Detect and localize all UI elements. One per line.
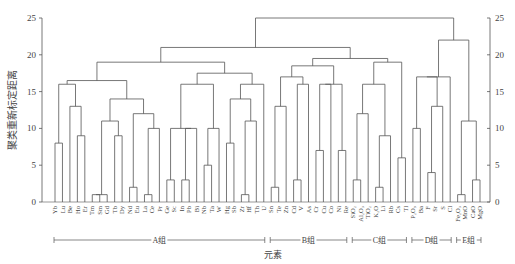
- tick-label: 25: [495, 13, 505, 23]
- leaf-label: Ba: [417, 206, 424, 213]
- leaf-label: Rb: [387, 206, 394, 214]
- right-axis-ticks: 0 5 10 15 20 25: [495, 13, 505, 207]
- leaf-labels: YbLuBeHoErTmSmGdTbDyNdEuLaCePrGeScInPbBi…: [51, 205, 483, 222]
- leaf-label: Er: [81, 205, 88, 212]
- group-label: C组: [373, 235, 386, 245]
- leaf-label: Ge: [163, 206, 170, 214]
- leaf-label: In: [178, 205, 185, 211]
- leaf-label: MgO: [476, 206, 483, 220]
- tick-label: 25: [27, 13, 37, 23]
- group-label: E组: [462, 235, 475, 245]
- y-axis-label: 聚类重新标定距离: [6, 70, 18, 150]
- leaf-label: Pb: [185, 206, 192, 213]
- leaf-label: U: [260, 206, 267, 211]
- leaf-label: V: [297, 206, 304, 211]
- leaf-label: Cr: [312, 205, 319, 212]
- leaf-label: MnO: [461, 206, 468, 220]
- leaf-label: Lu: [59, 205, 66, 213]
- left-axis: [39, 18, 42, 202]
- right-axis: [487, 18, 490, 202]
- leaf-label: Re: [342, 206, 349, 213]
- tick-label: 15: [495, 87, 505, 97]
- tick-label: 15: [27, 87, 37, 97]
- leaf-label: TiO₂: [364, 206, 371, 219]
- leaf-label: Cu: [320, 205, 327, 213]
- leaf-label: Be: [66, 206, 73, 213]
- leaf-label: Dy: [118, 205, 125, 214]
- tick-label: 5: [495, 160, 500, 170]
- leaf-label: Sc: [170, 206, 177, 213]
- tick-label: 10: [495, 123, 505, 133]
- leaf-label: Fe₂O₃: [454, 206, 461, 222]
- leaf-label: As: [305, 206, 312, 214]
- leaf-label: Pr: [156, 205, 163, 212]
- leaf-label: Sb: [230, 206, 237, 213]
- tick-label: 5: [32, 160, 37, 170]
- leaf-label: Tm: [88, 206, 95, 215]
- leaf-label: S: [439, 206, 446, 210]
- leaf-label: Sm: [96, 206, 103, 215]
- leaf-label: Th: [253, 205, 260, 213]
- leaf-label: Te: [275, 206, 282, 213]
- leaf-label: SiO₂: [349, 206, 356, 218]
- leaf-label: K₂O: [372, 206, 379, 218]
- leaf-label: Nb: [200, 206, 207, 214]
- leaf-label: Sr: [431, 205, 438, 212]
- leaf-label: Hf: [245, 205, 252, 213]
- leaf-label: Zr: [238, 205, 245, 212]
- leaf-label: Hg: [223, 205, 230, 214]
- leaf-label: Cl: [446, 206, 453, 212]
- dendrogram-chart: 0 5 10 15 20 25 0 5 10 15 20 25 聚类重新标定距离…: [0, 0, 515, 264]
- leaf-label: CaO: [469, 206, 476, 218]
- group-label: B组: [302, 235, 315, 245]
- group-label: D组: [425, 235, 439, 245]
- leaf-label: Yb: [51, 206, 58, 214]
- tick-label: 20: [27, 50, 37, 60]
- leaf-label: Ho: [74, 206, 81, 214]
- leaf-label: Sn: [267, 205, 274, 213]
- leaf-label: W: [215, 205, 222, 212]
- leaf-label: Ce: [148, 206, 155, 213]
- leaf-label: Eu: [133, 205, 140, 213]
- leaf-label: Co: [327, 206, 334, 214]
- group-label: A组: [152, 235, 166, 245]
- leaf-label: Ta: [208, 206, 215, 213]
- leaf-label: Tb: [111, 206, 118, 213]
- dendrogram-links: [55, 18, 480, 202]
- leaf-label: Li: [379, 206, 386, 212]
- leaf-label: Bi: [193, 206, 200, 212]
- left-axis-ticks: 0 5 10 15 20 25: [27, 13, 37, 207]
- leaf-label: La: [141, 206, 148, 213]
- leaf-label: Nd: [126, 205, 133, 214]
- leaf-label: Tl: [402, 206, 409, 212]
- leaf-label: Cd: [290, 205, 297, 213]
- group-brackets: [54, 237, 481, 243]
- leaf-label: Cs: [394, 206, 401, 213]
- tick-label: 0: [495, 197, 500, 207]
- tick-label: 0: [32, 197, 37, 207]
- leaf-label: Zn: [282, 205, 289, 213]
- leaf-label: P₂O₅: [409, 206, 416, 219]
- leaf-label: Ni: [335, 206, 342, 213]
- tick-label: 20: [495, 50, 505, 60]
- leaf-label: F: [424, 206, 431, 210]
- leaf-label: Al₂O₃: [357, 206, 364, 222]
- leaf-label: Gd: [103, 205, 110, 214]
- tick-label: 10: [27, 123, 37, 133]
- x-axis-label: 元素: [264, 249, 282, 260]
